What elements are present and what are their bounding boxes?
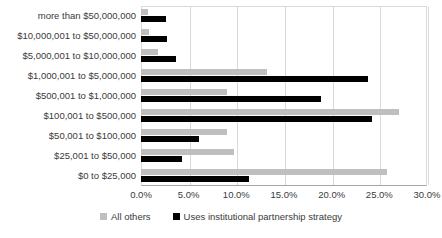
legend-swatch-icon bbox=[100, 213, 107, 220]
value-tick-label: 15.0% bbox=[271, 189, 298, 200]
bar-group bbox=[141, 106, 427, 126]
bar bbox=[141, 109, 399, 115]
bar bbox=[141, 9, 148, 15]
bar bbox=[141, 69, 267, 75]
bar-rows bbox=[141, 6, 427, 186]
gridline bbox=[428, 7, 429, 185]
bar bbox=[141, 36, 167, 42]
bar-chart: more than $50,000,000$10,000,001 to $50,… bbox=[0, 0, 442, 238]
bar bbox=[141, 89, 227, 95]
bar bbox=[141, 76, 368, 82]
bar bbox=[141, 149, 234, 155]
value-tick-label: 0.0% bbox=[130, 189, 152, 200]
legend-label: All others bbox=[111, 211, 151, 222]
category-label: $10,000,001 to $50,000,000 bbox=[0, 26, 136, 46]
legend-item[interactable]: All others bbox=[100, 211, 151, 222]
bar bbox=[141, 56, 176, 62]
value-tick-label: 30.0% bbox=[414, 189, 441, 200]
bar-group bbox=[141, 66, 427, 86]
bar bbox=[141, 136, 199, 142]
bar bbox=[141, 129, 227, 135]
category-label: $5,000,001 to $10,000,000 bbox=[0, 46, 136, 66]
bar-group bbox=[141, 26, 427, 46]
bar-group bbox=[141, 166, 427, 186]
bar bbox=[141, 49, 158, 55]
category-label: $25,001 to $50,000 bbox=[0, 146, 136, 166]
category-label: $100,001 to $500,000 bbox=[0, 106, 136, 126]
category-label: more than $50,000,000 bbox=[0, 6, 136, 26]
legend-item[interactable]: Uses institutional partnership strategy bbox=[173, 211, 342, 222]
category-axis-labels: more than $50,000,000$10,000,001 to $50,… bbox=[0, 6, 136, 186]
value-tick-label: 10.0% bbox=[223, 189, 250, 200]
bar bbox=[141, 176, 249, 182]
category-label: $1,000,001 to $5,000,000 bbox=[0, 66, 136, 86]
bar bbox=[141, 29, 149, 35]
legend-label: Uses institutional partnership strategy bbox=[184, 211, 342, 222]
bar-group bbox=[141, 146, 427, 166]
bar bbox=[141, 169, 387, 175]
value-tick-label: 5.0% bbox=[178, 189, 200, 200]
value-tick-label: 25.0% bbox=[366, 189, 393, 200]
category-label: $500,001 to $1,000,000 bbox=[0, 86, 136, 106]
bar-group bbox=[141, 6, 427, 26]
value-axis-labels: 0.0%5.0%10.0%15.0%20.0%25.0%30.0% bbox=[141, 189, 427, 203]
bar-group bbox=[141, 46, 427, 66]
bar bbox=[141, 116, 372, 122]
bar bbox=[141, 96, 321, 102]
bar-group bbox=[141, 126, 427, 146]
chart-legend: All othersUses institutional partnership… bbox=[0, 211, 442, 222]
bar bbox=[141, 16, 166, 22]
value-tick-label: 20.0% bbox=[318, 189, 345, 200]
legend-swatch-icon bbox=[173, 213, 180, 220]
category-label: $0 to $25,000 bbox=[0, 166, 136, 186]
category-label: $50,001 to $100,000 bbox=[0, 126, 136, 146]
bar bbox=[141, 156, 182, 162]
bar-group bbox=[141, 86, 427, 106]
